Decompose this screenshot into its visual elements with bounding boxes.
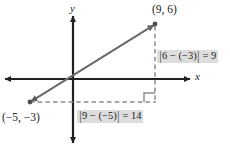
point-label-9-6: (9, 6) (152, 4, 177, 16)
y-axis-label: y (70, 3, 75, 14)
abs-bar-open-vertical: | (159, 50, 162, 63)
vertical-leg-expression: 6 − (−3) (162, 50, 197, 61)
horizontal-leg-equals-value: = 14 (120, 110, 142, 121)
hypotenuse-segment-reverse (31, 25, 154, 102)
vertical-leg-equals-value: = 9 (200, 50, 216, 61)
abs-bar-close-horizontal: | (117, 110, 120, 123)
horizontal-leg-length-label: |9 − (−5)| = 14 (77, 110, 143, 123)
abs-bar-open-horizontal: | (79, 110, 82, 123)
point-marker-upper (153, 22, 158, 27)
distance-diagram-figure: y x (9, 6) (−5, −3) |6 − (−3)| = 9 |9 − … (0, 0, 230, 148)
point-marker-lower (28, 100, 33, 105)
point-label-neg5-neg3: (−5, −3) (2, 112, 40, 124)
vertical-leg-length-label: |6 − (−3)| = 9 (157, 50, 218, 63)
x-axis-label: x (195, 71, 200, 82)
right-angle-marker (144, 93, 155, 102)
abs-bar-close-vertical: | (197, 50, 200, 63)
horizontal-leg-expression: 9 − (−5) (82, 110, 117, 121)
